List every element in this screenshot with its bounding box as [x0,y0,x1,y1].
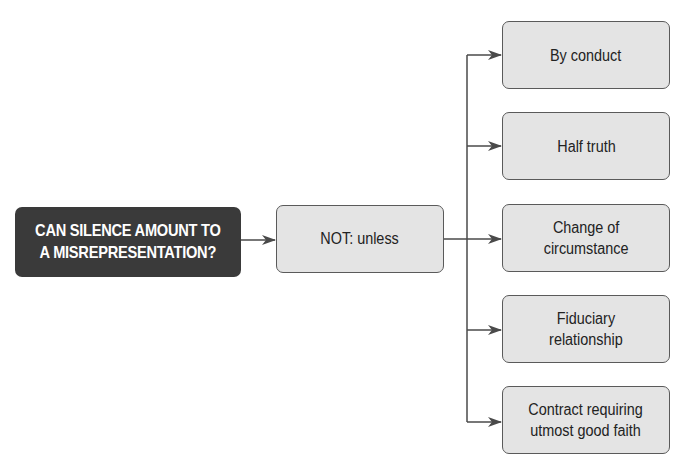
branch-5-line-1: Contract requiring [529,399,643,420]
branch-2-line-1: Half truth [557,136,615,157]
branch-1-line-1: By conduct [550,45,621,66]
root-question-box: CAN SILENCE AMOUNT TO A MISREPRESENTATIO… [15,207,241,277]
branch-box-fiduciary-relationship: Fiduciary relationship [502,295,670,363]
branch-3-line-1: Change of [544,217,629,238]
branch-box-change-of-circumstance: Change of circumstance [502,204,670,272]
branch-5-line-2: utmost good faith [529,420,643,441]
middle-label: NOT: unless [321,230,399,248]
root-line-2: A MISREPRESENTATION? [35,242,220,264]
root-line-1: CAN SILENCE AMOUNT TO [35,220,220,242]
branch-3-line-2: circumstance [544,238,629,259]
middle-condition-box: NOT: unless [276,205,444,273]
branch-box-by-conduct: By conduct [502,21,670,89]
branch-4-line-1: Fiduciary [549,308,623,329]
branch-box-contract-utmost-good-faith: Contract requiring utmost good faith [502,386,670,454]
branch-box-half-truth: Half truth [502,112,670,180]
branch-4-line-2: relationship [549,329,623,350]
